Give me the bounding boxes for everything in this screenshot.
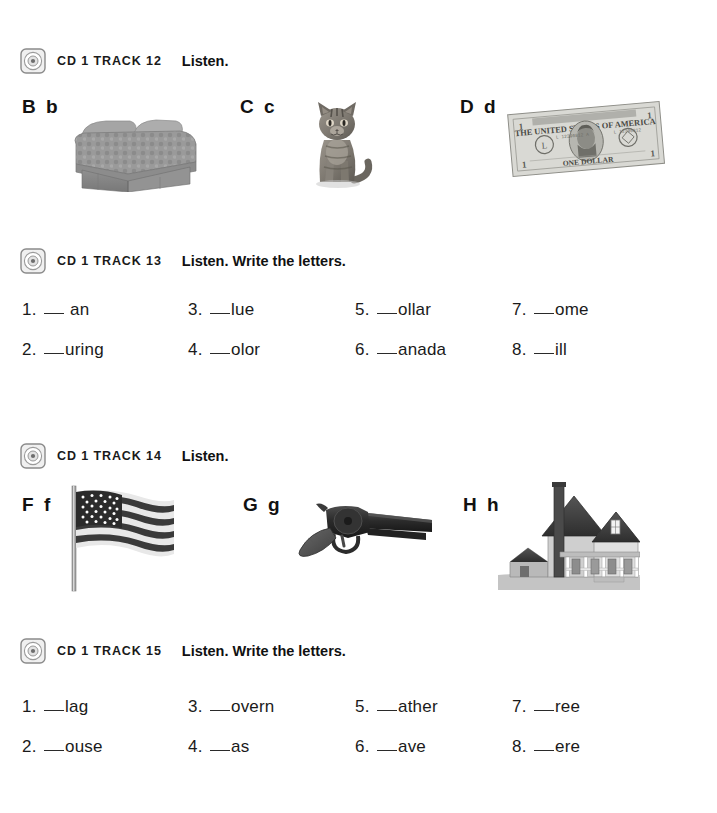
answer-blank[interactable]: [534, 737, 554, 751]
exercise-item[interactable]: 8.ere: [512, 737, 580, 757]
exercise-item[interactable]: 8.ill: [512, 340, 567, 360]
exercise-item[interactable]: 7.ree: [512, 697, 580, 717]
answer-blank[interactable]: [534, 300, 554, 314]
exercise-item[interactable]: 2.ouse: [22, 737, 103, 757]
item-word: ome: [555, 300, 589, 319]
letter-label-d: D d: [460, 96, 498, 118]
item-number: 7.: [512, 697, 534, 717]
item-word: olor: [231, 340, 260, 359]
answer-blank[interactable]: [44, 300, 64, 314]
letter-label-h: H h: [463, 494, 501, 516]
item-number: 2.: [22, 340, 44, 360]
item-number: 7.: [512, 300, 534, 320]
exercise-item[interactable]: 6.anada: [355, 340, 446, 360]
item-number: 3.: [188, 697, 210, 717]
letter-row-bcd: B b: [0, 92, 717, 212]
cd-icon: [20, 48, 46, 74]
item-number: 8.: [512, 737, 534, 757]
exercise-item[interactable]: 5.ather: [355, 697, 438, 717]
letter-label-f: F f: [22, 494, 53, 516]
house-photo: [498, 478, 640, 590]
item-word: ather: [398, 697, 438, 716]
answer-blank[interactable]: [377, 300, 397, 314]
letter-label-b: B b: [22, 96, 60, 118]
letter-label-g: G g: [243, 494, 282, 516]
item-word: uring: [65, 340, 104, 359]
item-word: ollar: [398, 300, 431, 319]
gun-photo: [286, 498, 438, 560]
item-word: anada: [398, 340, 446, 359]
letter-label-c: C c: [240, 96, 277, 118]
item-word: ree: [555, 697, 580, 716]
track-label: CD 1 TRACK 12: [57, 54, 162, 68]
track-instruction: Listen. Write the letters.: [182, 643, 346, 659]
answer-blank[interactable]: [534, 697, 554, 711]
item-number: 1.: [22, 697, 44, 717]
item-number: 8.: [512, 340, 534, 360]
track-label: CD 1 TRACK 14: [57, 449, 162, 463]
item-number: 2.: [22, 737, 44, 757]
item-word: ill: [555, 340, 567, 359]
flag-photo: [62, 484, 180, 594]
item-word: ouse: [65, 737, 103, 756]
item-word: lue: [231, 300, 254, 319]
answer-blank[interactable]: [534, 340, 554, 354]
exercise-item[interactable]: 3.overn: [188, 697, 275, 717]
item-number: 4.: [188, 340, 210, 360]
item-number: 4.: [188, 737, 210, 757]
track-header-13: CD 1 TRACK 13 Listen. Write the letters.: [20, 248, 346, 274]
worksheet-page: CD 1 TRACK 12 Listen. B b: [0, 0, 717, 813]
item-number: 3.: [188, 300, 210, 320]
answer-blank[interactable]: [210, 697, 230, 711]
item-number: 5.: [355, 697, 377, 717]
track-instruction: Listen.: [182, 53, 229, 69]
letter-row-fgh: F f: [0, 490, 717, 610]
item-word: as: [231, 737, 249, 756]
answer-blank[interactable]: [377, 737, 397, 751]
item-number: 6.: [355, 340, 377, 360]
answer-blank[interactable]: [44, 697, 64, 711]
exercise-item[interactable]: 4.as: [188, 737, 249, 757]
dollar-photo: THE UNITED STATES OF AMERICA 1 1 1 1 L: [496, 94, 676, 182]
exercise-item[interactable]: 4.olor: [188, 340, 260, 360]
item-number: 6.: [355, 737, 377, 757]
answer-blank[interactable]: [44, 340, 64, 354]
track-instruction: Listen.: [182, 448, 229, 464]
track-label: CD 1 TRACK 15: [57, 644, 162, 658]
answer-blank[interactable]: [377, 697, 397, 711]
track-label: CD 1 TRACK 13: [57, 254, 162, 268]
answer-blank[interactable]: [210, 340, 230, 354]
answer-blank[interactable]: [210, 737, 230, 751]
cd-icon: [20, 443, 46, 469]
cat-photo: [296, 94, 380, 192]
item-number: 5.: [355, 300, 377, 320]
exercise-item[interactable]: 6.ave: [355, 737, 426, 757]
track-header-14: CD 1 TRACK 14 Listen.: [20, 443, 229, 469]
bed-photo: [68, 114, 203, 192]
exercise-item[interactable]: 2.uring: [22, 340, 104, 360]
exercise-item[interactable]: 7.ome: [512, 300, 589, 320]
item-number: 1.: [22, 300, 44, 320]
item-word: ere: [555, 737, 580, 756]
track-instruction: Listen. Write the letters.: [182, 253, 346, 269]
item-word: overn: [231, 697, 275, 716]
track-header-12: CD 1 TRACK 12 Listen.: [20, 48, 229, 74]
exercise-item[interactable]: 1.an: [22, 300, 89, 320]
item-word: an: [70, 300, 89, 319]
cd-icon: [20, 248, 46, 274]
answer-blank[interactable]: [210, 300, 230, 314]
item-word: ave: [398, 737, 426, 756]
exercise-item[interactable]: 3.lue: [188, 300, 254, 320]
svg-text:L: L: [541, 140, 547, 150]
answer-blank[interactable]: [377, 340, 397, 354]
cd-icon: [20, 638, 46, 664]
exercise-item[interactable]: 1.lag: [22, 697, 88, 717]
exercise-item[interactable]: 5.ollar: [355, 300, 431, 320]
item-word: lag: [65, 697, 88, 716]
track-header-15: CD 1 TRACK 15 Listen. Write the letters.: [20, 638, 346, 664]
answer-blank[interactable]: [44, 737, 64, 751]
